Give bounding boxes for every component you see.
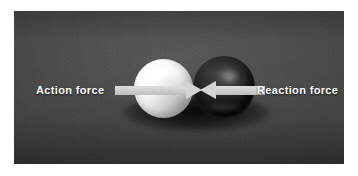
background-gradient-top — [14, 11, 344, 41]
action-force-arrow — [115, 86, 201, 95]
black-ball-lower-reflection — [203, 103, 243, 112]
reaction-force-arrow — [200, 86, 265, 95]
reaction-force-arrow-head — [200, 81, 216, 99]
photograph-plate: Action force Reaction force — [14, 11, 344, 164]
black-ball-highlight — [217, 68, 237, 83]
reaction-force-label: Reaction force — [257, 84, 338, 96]
figure-container: Action force Reaction force — [0, 0, 358, 176]
action-force-label: Action force — [36, 84, 104, 96]
action-force-arrow-shaft — [115, 86, 187, 95]
